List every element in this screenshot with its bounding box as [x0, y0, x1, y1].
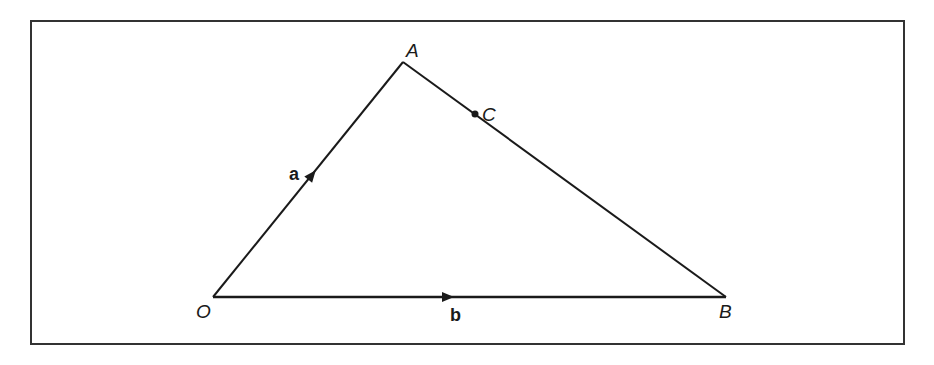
- side-AB: [403, 62, 726, 297]
- diagram-frame: [31, 21, 904, 344]
- vector-diagram: A C O B a b: [0, 0, 934, 365]
- label-vector-a: a: [289, 164, 300, 184]
- label-A: A: [405, 40, 419, 61]
- side-OA: [213, 62, 403, 297]
- label-B: B: [719, 301, 732, 322]
- label-vector-b: b: [450, 305, 461, 325]
- point-C-dot: [472, 111, 479, 118]
- arrow-b-icon: [442, 292, 454, 302]
- label-O: O: [196, 301, 211, 322]
- label-C: C: [482, 104, 496, 125]
